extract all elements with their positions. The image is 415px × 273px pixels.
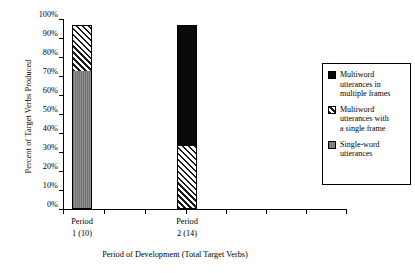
y-tick-label-50: 50% bbox=[24, 105, 58, 114]
y-tick-label-60: 60% bbox=[24, 86, 58, 95]
legend-label-line1: Multiword bbox=[340, 70, 374, 79]
y-tick-label-100: 100% bbox=[24, 10, 58, 19]
y-tick-label-70: 70% bbox=[24, 67, 58, 76]
y-tick-label-0: 0% bbox=[24, 200, 58, 209]
legend-label-line1: Multiword bbox=[340, 105, 374, 114]
legend-label-line1: Single-word bbox=[340, 140, 380, 149]
x-tick-mark-1 bbox=[104, 210, 105, 214]
x-category-label-period-1: Period 1 (10) bbox=[37, 216, 127, 239]
solid-black-swatch-icon bbox=[328, 71, 336, 79]
x-tick-mark-6 bbox=[306, 210, 307, 214]
bar-segment-multiword-multiple-frames bbox=[178, 26, 196, 146]
x-tick-mark-4 bbox=[226, 210, 227, 214]
bar-period-2 bbox=[177, 25, 197, 209]
y-tick-label-30: 30% bbox=[24, 143, 58, 152]
legend-item-multiword-multiple-frames: Multiword utterances in multiple frames bbox=[328, 70, 406, 99]
y-tick-label-80: 80% bbox=[24, 48, 58, 57]
bar-segment-multiword-single-frame bbox=[73, 26, 91, 71]
bar-segment-multiword-single-frame bbox=[178, 146, 196, 208]
legend-label-line3: a single frame bbox=[340, 124, 385, 133]
x-category-label-period-1-line1: Period bbox=[37, 216, 127, 228]
plot-area bbox=[64, 19, 347, 209]
y-tick-label-10: 10% bbox=[24, 181, 58, 190]
chart-legend: Multiword utterances in multiple frames … bbox=[322, 63, 411, 185]
x-tick-mark-5 bbox=[266, 210, 267, 214]
x-category-label-period-1-line2: 1 (10) bbox=[37, 228, 127, 240]
legend-item-multiword-multiple-frames-label: Multiword utterances in multiple frames bbox=[340, 70, 390, 99]
solid-gray-swatch-icon bbox=[328, 141, 336, 149]
x-tick-mark-7 bbox=[346, 210, 347, 214]
x-category-label-period-2-line1: Period bbox=[142, 216, 232, 228]
legend-item-single-word-label: Single-word utterances bbox=[340, 140, 380, 159]
y-tick-label-20: 20% bbox=[24, 162, 58, 171]
bar-period-1 bbox=[72, 25, 92, 209]
chart-figure: Percent of Target Verbs Produced 100% 90… bbox=[0, 0, 415, 273]
legend-item-single-word: Single-word utterances bbox=[328, 140, 406, 159]
y-tick-label-90: 90% bbox=[24, 29, 58, 38]
y-axis-tick-labels: 100% 90% 80% 70% 60% 50% 40% 30% 20% 10%… bbox=[24, 14, 58, 210]
x-tick-mark-2 bbox=[145, 210, 146, 214]
x-tick-mark-0 bbox=[63, 210, 64, 214]
x-category-label-period-2: Period 2 (14) bbox=[142, 216, 232, 239]
x-category-label-period-2-line2: 2 (14) bbox=[142, 228, 232, 240]
bar-segment-single-word bbox=[73, 71, 91, 208]
legend-label-line2: utterances bbox=[340, 149, 372, 158]
x-axis-title: Period of Development (Total Target Verb… bbox=[30, 250, 320, 259]
x-tick-mark-3 bbox=[186, 210, 187, 214]
diagonal-hatch-swatch-icon bbox=[328, 106, 336, 114]
y-tick-label-40: 40% bbox=[24, 124, 58, 133]
legend-item-multiword-single-frame-label: Multiword utterances with a single frame bbox=[340, 105, 389, 134]
legend-label-line2: utterances in bbox=[340, 80, 381, 89]
x-axis-line bbox=[63, 209, 347, 210]
legend-label-line2: utterances with bbox=[340, 114, 389, 123]
legend-label-line3: multiple frames bbox=[340, 89, 390, 98]
legend-item-multiword-single-frame: Multiword utterances with a single frame bbox=[328, 105, 406, 134]
